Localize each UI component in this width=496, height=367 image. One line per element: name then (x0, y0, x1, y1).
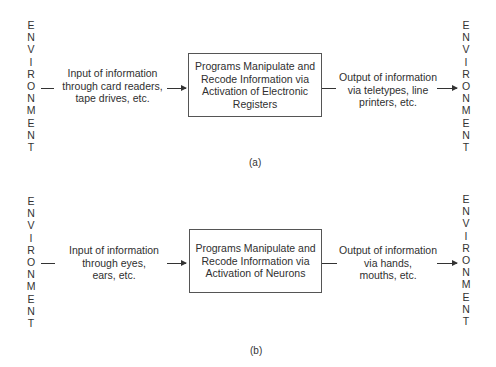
env-letter: R (27, 244, 35, 256)
env-letter: R (462, 242, 470, 254)
env-letter: E (462, 19, 469, 31)
env-letter: E (462, 291, 469, 303)
env-letter: E (27, 19, 34, 31)
env-letter: E (27, 293, 34, 305)
process-box-a: Programs Manipulate and Recode Informati… (188, 53, 322, 117)
process-line: Activation of Electronic (195, 85, 315, 98)
env-letter: O (27, 256, 35, 268)
env-letter: O (27, 80, 35, 92)
process-line: Recode Information via (195, 255, 315, 268)
env-letter: M (462, 104, 471, 116)
env-letter: N (27, 31, 35, 43)
env-letter: M (27, 280, 36, 292)
env-letter: N (27, 129, 35, 141)
output-line: printers, etc. (336, 96, 440, 109)
env-letter: T (28, 141, 34, 153)
env-letter: V (462, 43, 469, 55)
process-box-b: Programs Manipulate and Recode Informati… (189, 229, 322, 293)
input-arrow-b (167, 263, 186, 264)
output-label-a: Output of information via teletypes, lin… (336, 71, 440, 109)
output-line: mouths, etc. (336, 269, 440, 282)
input-line: tape drives, etc. (60, 92, 165, 105)
output-line: via teletypes, line (336, 84, 440, 97)
env-letter: N (27, 268, 35, 280)
caption-a: (a) (249, 157, 261, 168)
env-letter: N (27, 305, 35, 317)
env-letter: N (462, 92, 470, 104)
env-letter: E (462, 193, 469, 205)
env-letter: N (462, 205, 470, 217)
env-letter: T (463, 315, 469, 327)
input-line: ears, etc. (62, 269, 166, 282)
input-label-a: Input of information through card reader… (60, 67, 165, 105)
env-letter: N (462, 303, 470, 315)
env-letter: E (27, 195, 34, 207)
env-letter: O (462, 80, 470, 92)
left-environment-b: E N V I R O N M E N T (24, 195, 38, 329)
process-line: Programs Manipulate and (195, 242, 315, 255)
env-letter: O (462, 254, 470, 266)
env-letter: I (30, 232, 33, 244)
output-arrow-b (437, 263, 457, 264)
process-line: Registers (195, 98, 315, 111)
env-letter: I (30, 56, 33, 68)
input-line: through eyes, (62, 257, 166, 270)
input-connector-b (41, 263, 55, 264)
env-letter: T (463, 141, 469, 153)
input-line: Input of information (60, 67, 165, 80)
env-letter: N (27, 92, 35, 104)
env-letter: N (27, 207, 35, 219)
right-environment-a: E N V I R O N M E N T (459, 19, 473, 153)
process-line: Activation of Neurons (195, 267, 315, 280)
output-label-b: Output of information via hands, mouths,… (336, 244, 440, 282)
input-label-b: Input of information through eyes, ears,… (62, 244, 166, 282)
output-line: Output of information (336, 71, 440, 84)
output-connector-a (322, 88, 336, 89)
env-letter: N (462, 129, 470, 141)
env-letter: I (465, 56, 468, 68)
caption-b: (b) (250, 345, 262, 356)
env-letter: N (462, 266, 470, 278)
input-connector-a (41, 88, 54, 89)
env-letter: N (462, 31, 470, 43)
input-line: Input of information (62, 244, 166, 257)
env-letter: R (27, 68, 35, 80)
output-connector-b (322, 263, 337, 264)
left-environment-a: E N V I R O N M E N T (24, 19, 38, 153)
process-line: Programs Manipulate and (195, 60, 315, 73)
env-letter: E (27, 117, 34, 129)
env-letter: V (27, 43, 34, 55)
output-line: via hands, (336, 257, 440, 270)
env-letter: V (462, 217, 469, 229)
right-environment-b: E N V I R O N M E N T (459, 193, 473, 327)
output-line: Output of information (336, 244, 440, 257)
output-arrow-a (437, 88, 457, 89)
env-letter: V (27, 219, 34, 231)
env-letter: M (462, 278, 471, 290)
env-letter: I (465, 230, 468, 242)
env-letter: M (27, 104, 36, 116)
env-letter: E (462, 117, 469, 129)
input-line: through card readers, (60, 80, 165, 93)
input-arrow-a (167, 88, 186, 89)
env-letter: R (462, 68, 470, 80)
process-line: Recode Information via (195, 73, 315, 86)
env-letter: T (28, 317, 34, 329)
